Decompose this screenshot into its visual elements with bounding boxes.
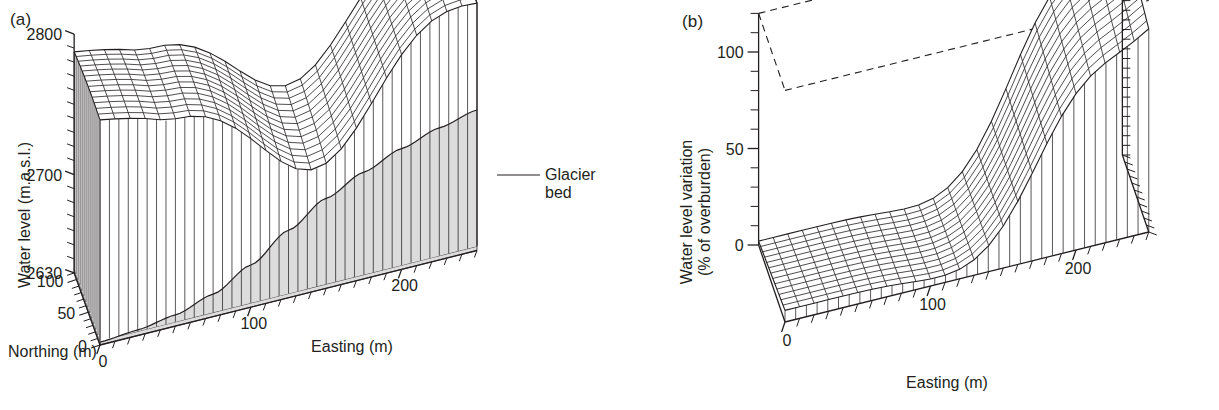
x-axis-title-b: Easting (m) — [906, 374, 988, 391]
panel-a-tag: (a) — [10, 10, 31, 30]
z-tick-label-b: 0 — [735, 237, 744, 254]
x-axis-title-a: Easting (m) — [311, 338, 393, 355]
panel-a: 263027002800Water level (m.a.s.l.)050100… — [0, 0, 610, 410]
y-tick-label-a: 50 — [57, 305, 75, 322]
panel-b-tag: (b) — [682, 12, 703, 32]
z-axis-title-b-line2: (% of overburden) — [696, 148, 713, 276]
figure-container: 263027002800Water level (m.a.s.l.)050100… — [0, 0, 1219, 410]
x-tick-label-b: 0 — [783, 332, 792, 349]
z-tick-label-b: 100 — [717, 44, 744, 61]
z-axis-title-a: Water level (m.a.s.l.) — [16, 142, 33, 288]
x-tick-label-b: 100 — [919, 296, 946, 313]
x-tick-label-b: 200 — [1065, 260, 1092, 277]
x-tick-label-a: 200 — [391, 277, 418, 294]
glacier-bed-label-line1: Glacier — [545, 166, 596, 183]
y-tick-label-a: 100 — [37, 273, 64, 290]
panel-b: 050100Water level variation(% of overbur… — [610, 0, 1219, 410]
panel-a-plot: 263027002800Water level (m.a.s.l.)050100… — [0, 0, 610, 410]
z-tick-label-b: 50 — [726, 141, 744, 158]
z-axis-title-b-line1: Water level variation — [678, 140, 695, 284]
panel-b-plot: 050100Water level variation(% of overbur… — [610, 0, 1219, 410]
x-tick-label-a: 100 — [240, 315, 267, 332]
z-tick-label-a: 2800 — [27, 26, 63, 43]
glacier-bed-label-line2: bed — [545, 184, 572, 201]
glacier-bed-annotation: Glacierbed — [497, 166, 596, 201]
y-axis-title-a: Northing (m) — [8, 343, 97, 360]
x-tick-label-a: 0 — [99, 353, 108, 370]
